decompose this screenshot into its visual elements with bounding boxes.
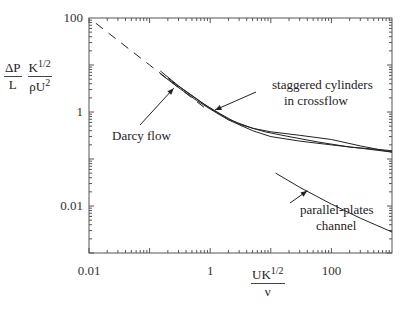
y-tick-label: 1 [77,104,84,119]
x-tick-label: 0.01 [78,263,101,278]
chart: 0.01110010010.01 Darcy flowstaggered cyl… [0,0,408,317]
x-axis-label: UK1/2ν [251,265,291,300]
arrowhead-icon [300,191,307,197]
annotation-label: channel [316,218,357,233]
series-line-0 [96,23,207,110]
x-tick-label: 100 [322,263,342,278]
annotation-arrow [140,88,174,125]
annotation-label: in crossflow [284,93,349,108]
x-tick-label: 1 [207,263,214,278]
y-tick-label: 100 [64,10,84,25]
y-tick-label: 0.01 [60,198,83,213]
annotation-label: Darcy flow [112,128,171,143]
annotation-label: parallel-plates [300,202,374,217]
arrowhead-icon [215,105,222,110]
annotation-label: staggered cylinders [272,77,373,92]
annotation-arrow [215,92,256,110]
y-axis-label: ΔPLK1/2ρU2 [4,58,58,96]
